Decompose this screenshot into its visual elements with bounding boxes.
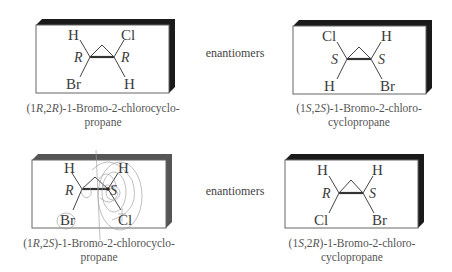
caption-1S2S-line1: (1S,2S)-1-Bromo-2-chloro-	[296, 102, 422, 115]
caption-1S2R-line1: (1S,2R)-1-Bromo-2-chloro-	[289, 237, 416, 250]
caption-1S2S-line2: cyclopropane	[328, 116, 390, 129]
caption-1R2R-line2: propane	[84, 116, 121, 129]
config-c1: R	[64, 183, 74, 198]
atom-top-right: H	[381, 28, 392, 44]
atom-top-left: H	[317, 162, 328, 178]
caption-1R2S-line2: propane	[80, 251, 117, 264]
config-c2: S	[378, 52, 385, 67]
molecule-box-1R2S: H H Br Cl R S	[32, 150, 172, 240]
atom-top-right: H	[372, 162, 383, 178]
atom-top-right: Cl	[121, 27, 135, 43]
config-c2: R	[120, 50, 130, 65]
relation-label-row2: enantiomers	[206, 184, 265, 198]
atom-bottom-right: Cl	[118, 212, 132, 228]
config-c1: S	[331, 52, 338, 67]
config-c2: S	[110, 183, 117, 198]
molecule-box-1S2R: H H Cl Br R S	[285, 154, 424, 228]
atom-top-left: Cl	[322, 28, 336, 44]
atom-bottom-right: Br	[372, 212, 387, 228]
atom-bottom-left: H	[324, 78, 335, 94]
box-face	[36, 25, 169, 93]
atom-bottom-right: Br	[380, 78, 395, 94]
relation-label-row1: enantiomers	[206, 46, 265, 60]
atom-top-left: H	[68, 27, 79, 43]
config-c1: R	[321, 186, 331, 201]
caption-1R2S-line1: (1R,2S)-1-Bromo-2-chlorocyclo-	[23, 237, 175, 250]
atom-bottom-left: Cl	[314, 212, 328, 228]
caption-1S2R-line2: cyclopropane	[321, 251, 383, 264]
atom-top-right: H	[118, 160, 129, 176]
atom-top-left: H	[64, 160, 75, 176]
caption-1R2R-line1: (1R,2R)-1-Bromo-2-chlorocyclo-	[27, 102, 180, 115]
figure-stage: H Cl Br H R R (1R,2R)-1-Bromo-2-chlorocy…	[0, 0, 452, 272]
molecule-box-1R2R: H Cl Br H R R	[36, 19, 175, 93]
atom-bottom-left: Br	[60, 212, 75, 228]
atom-bottom-left: Br	[66, 76, 81, 92]
config-c2: S	[369, 186, 376, 201]
molecule-box-1S2S: Cl H H Br S S	[293, 20, 432, 94]
atom-bottom-right: H	[124, 76, 135, 92]
stereoisomer-diagram: H Cl Br H R R (1R,2R)-1-Bromo-2-chlorocy…	[0, 0, 452, 272]
config-c1: R	[73, 50, 83, 65]
